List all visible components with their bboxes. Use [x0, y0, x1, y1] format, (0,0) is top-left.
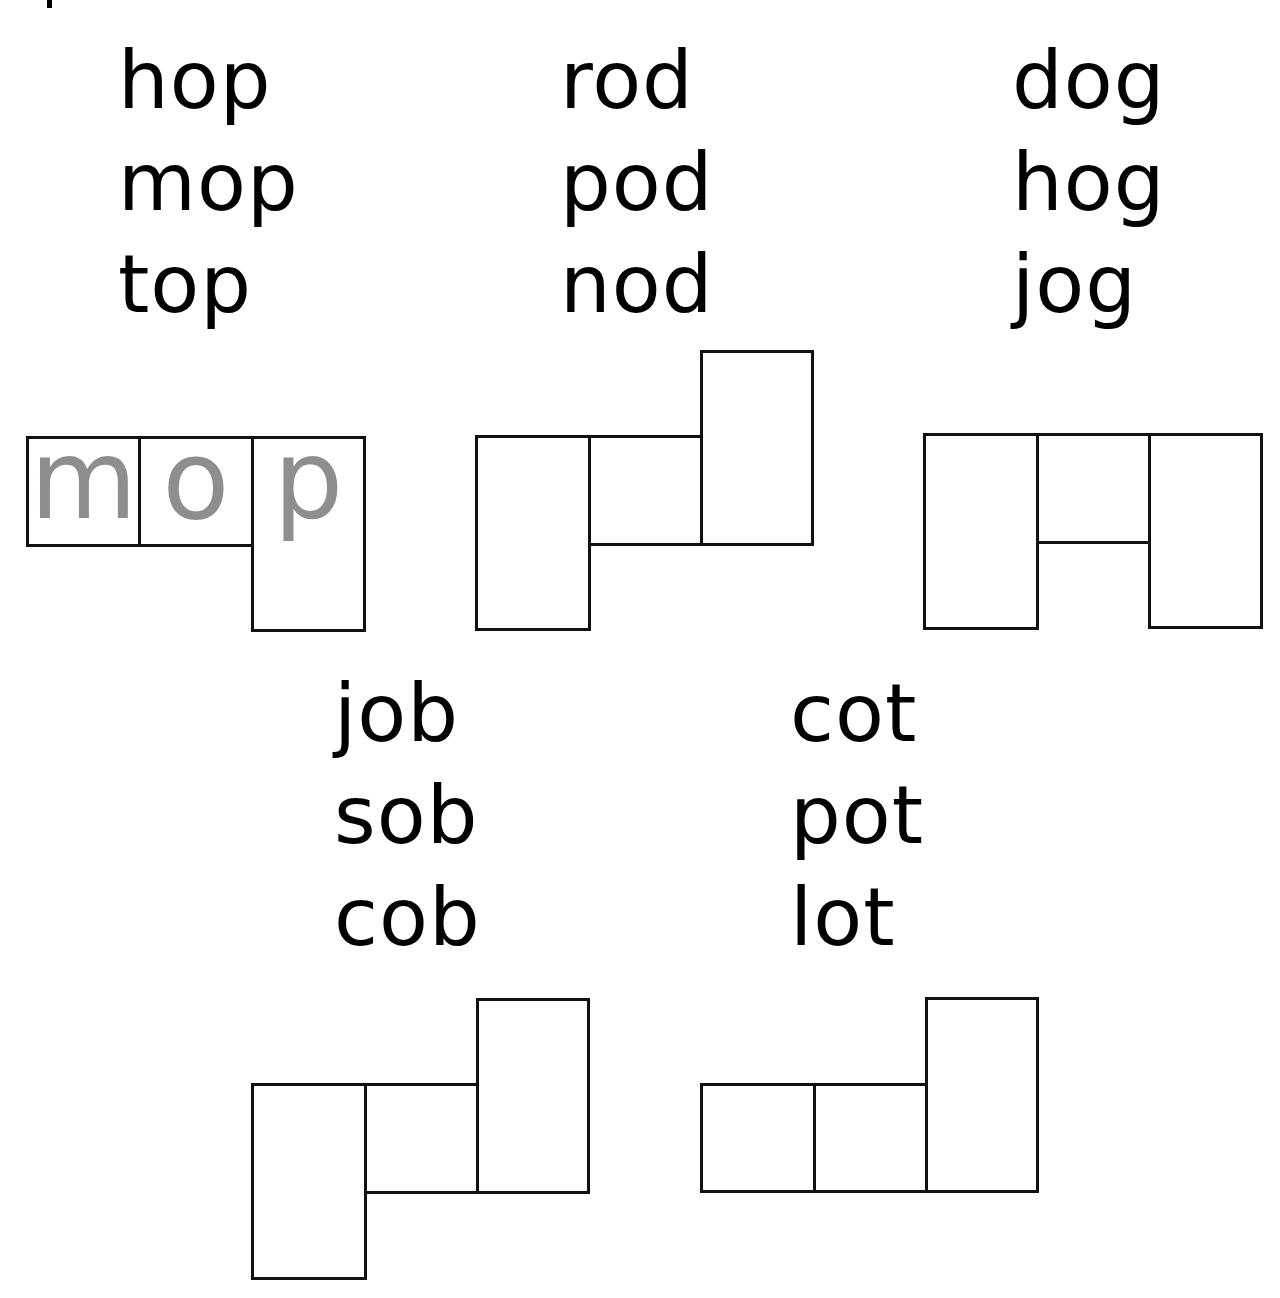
word: nod: [560, 234, 714, 336]
tracing-letter: o: [162, 425, 229, 535]
word: cot: [790, 663, 924, 765]
word: top: [118, 234, 299, 336]
word-list-op: hop mop top: [118, 30, 299, 336]
letter-box[interactable]: [700, 1083, 816, 1193]
corner-mark: [47, 0, 52, 8]
word-list-ob: job sob cob: [334, 663, 481, 969]
word: rod: [560, 30, 714, 132]
letter-box[interactable]: [475, 435, 591, 631]
letter-box: o: [138, 436, 254, 547]
word-list-ot: cot pot lot: [790, 663, 924, 969]
letter-box[interactable]: [923, 433, 1039, 630]
tracing-letter: p: [274, 425, 344, 535]
letter-box[interactable]: [813, 1083, 928, 1193]
letter-box[interactable]: [588, 435, 703, 546]
letter-box[interactable]: [1036, 433, 1151, 544]
word: pod: [560, 132, 714, 234]
letter-box: p: [251, 436, 366, 632]
word: sob: [334, 765, 481, 867]
word: lot: [790, 867, 924, 969]
word-list-og: dog hog jog: [1012, 30, 1166, 336]
letter-box[interactable]: [1148, 433, 1263, 629]
letter-box: m: [26, 436, 141, 547]
word: mop: [118, 132, 299, 234]
tracing-letter: m: [30, 425, 137, 535]
letter-box[interactable]: [700, 350, 814, 546]
word: job: [334, 663, 481, 765]
letter-box[interactable]: [364, 1083, 479, 1194]
word-list-od: rod pod nod: [560, 30, 714, 336]
word: cob: [334, 867, 481, 969]
word: jog: [1012, 234, 1166, 336]
word: hop: [118, 30, 299, 132]
word: pot: [790, 765, 924, 867]
letter-box[interactable]: [476, 998, 590, 1194]
letter-box[interactable]: [251, 1083, 367, 1280]
word: hog: [1012, 132, 1166, 234]
letter-box[interactable]: [925, 997, 1039, 1193]
word: dog: [1012, 30, 1166, 132]
